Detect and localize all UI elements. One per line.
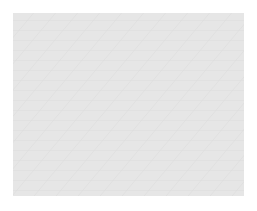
ground-grid [13,13,244,196]
cube-viewport [0,0,257,211]
